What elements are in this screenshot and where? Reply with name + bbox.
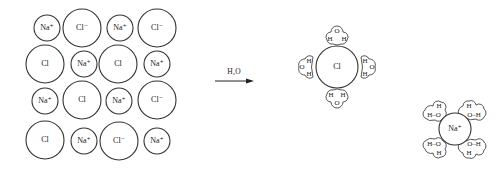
lattice-ion: Cl — [26, 45, 64, 83]
lattice-ion: Na⁺ — [144, 128, 170, 154]
lattice-ion: Na⁺ — [34, 15, 60, 41]
lattice-ion: Na⁺ — [32, 88, 58, 114]
ion-label: Na⁺ — [77, 59, 91, 68]
water-label: H–O — [427, 111, 441, 119]
oxygen-label: O — [369, 63, 374, 71]
ion-label: Na⁺ — [150, 136, 164, 145]
lattice-ion: Cl⁻ — [100, 122, 138, 160]
hydrogen-label: H — [341, 35, 346, 43]
water-label: O–H — [467, 140, 481, 148]
ion-label: Cl⁻ — [76, 23, 88, 32]
ion-label: Na⁺ — [150, 59, 164, 68]
lattice-ion: Cl — [26, 121, 64, 159]
water-label: H — [466, 102, 471, 110]
water-label: H — [466, 149, 471, 157]
water-molecule: H–O H — [423, 138, 446, 158]
water-label: H–O — [427, 140, 441, 148]
nacl-crystal-lattice: Na⁺ Cl⁻ Na⁺ Cl⁻ Cl Na⁺ Cl Na⁺ — [26, 9, 176, 160]
ion-label: Na⁺ — [113, 23, 127, 32]
hydrated-sodium-ion: H H–O H O–H H–O H O–H H Na⁺ — [423, 101, 486, 159]
lattice-ion: Cl — [99, 45, 137, 83]
ion-label: Cl⁻ — [113, 136, 125, 145]
lattice-ion: Na⁺ — [71, 51, 97, 77]
lattice-ion: Na⁺ — [144, 51, 170, 77]
lattice-ion: Na⁺ — [107, 15, 133, 41]
hydrogen-label: H — [362, 70, 367, 78]
hydrogen-label: H — [340, 91, 345, 99]
lattice-ion: Cl⁻ — [138, 9, 176, 47]
water-molecule: H O H — [299, 56, 313, 79]
oxygen-label: O — [334, 27, 339, 35]
hydrogen-label: H — [328, 91, 333, 99]
hydrated-chloride-ion: O H H H O H H O H H H O Cl — [299, 26, 376, 108]
water-label: H — [436, 102, 441, 110]
water-molecule: H H O — [326, 89, 348, 108]
water-molecule: H O H — [361, 56, 375, 79]
lattice-ion: Cl — [63, 81, 101, 119]
reaction-arrow: H₂O — [215, 67, 254, 84]
hydrogen-label: H — [306, 57, 311, 65]
ion-label: Cl — [41, 59, 49, 68]
ion-label: Cl⁻ — [151, 95, 163, 104]
nacl-dissolution-diagram: Na⁺ Cl⁻ Na⁺ Cl⁻ Cl Na⁺ Cl Na⁺ — [0, 0, 501, 172]
arrowhead-icon — [246, 79, 254, 84]
lattice-ion: Na⁺ — [71, 128, 97, 154]
ion-label: Cl — [114, 59, 122, 68]
ion-label: Cl — [78, 95, 86, 104]
ion-label: Na⁺ — [38, 96, 52, 105]
water-molecule: O H H — [326, 26, 348, 45]
lattice-ion: Cl⁻ — [138, 81, 176, 119]
hydrogen-label: H — [327, 35, 332, 43]
hydrogen-label: H — [306, 70, 311, 78]
oxygen-label: O — [334, 99, 339, 107]
water-label: O–H — [467, 111, 481, 119]
arrow-label: H₂O — [227, 67, 241, 76]
water-label: H — [436, 149, 441, 157]
ion-label: Cl — [333, 62, 341, 71]
ion-label: Na⁺ — [448, 124, 462, 133]
hydrogen-label: H — [362, 57, 367, 65]
lattice-ion: Cl⁻ — [63, 9, 101, 47]
ion-label: Na⁺ — [40, 23, 54, 32]
ion-label: Na⁺ — [77, 136, 91, 145]
ion-label: Cl⁻ — [151, 23, 163, 32]
ion-label: Cl — [41, 135, 49, 144]
oxygen-label: O — [299, 63, 304, 71]
lattice-ion: Na⁺ — [106, 88, 132, 114]
ion-label: Na⁺ — [112, 96, 126, 105]
